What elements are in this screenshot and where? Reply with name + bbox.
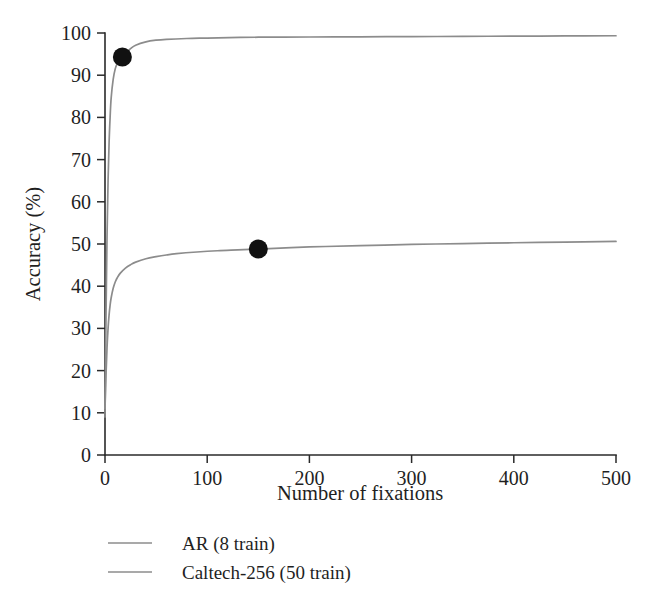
- y-tick-label: 100: [61, 22, 91, 44]
- x-tick-label: 500: [601, 467, 631, 489]
- y-axis-title: Accuracy (%): [22, 187, 45, 301]
- y-tick-label: 70: [71, 149, 91, 171]
- y-tick-label: 90: [71, 64, 91, 86]
- x-tick-label: 100: [192, 467, 222, 489]
- y-tick-label: 20: [71, 360, 91, 382]
- highlight-marker-1: [249, 240, 268, 259]
- y-tick-group: [97, 33, 105, 455]
- y-tick-label: 40: [71, 275, 91, 297]
- x-axis: 0100200300400500 Number of fixations: [100, 455, 631, 504]
- x-tick-label: 400: [499, 467, 529, 489]
- figure-container: 0102030405060708090100 Accuracy (%) 0100…: [0, 0, 657, 611]
- y-tick-label: 10: [71, 402, 91, 424]
- y-tick-label-group: 0102030405060708090100: [61, 22, 91, 466]
- y-tick-label: 30: [71, 317, 91, 339]
- y-tick-label: 60: [71, 191, 91, 213]
- y-axis: 0102030405060708090100 Accuracy (%): [22, 22, 105, 466]
- x-tick-label: 0: [100, 467, 110, 489]
- x-tick-group: [105, 455, 616, 463]
- highlight-marker-0: [113, 48, 132, 67]
- plot-area: [105, 33, 616, 455]
- chart-legend: AR (8 train)Caltech-256 (50 train): [108, 533, 351, 584]
- y-tick-label: 0: [81, 444, 91, 466]
- x-axis-title: Number of fixations: [277, 482, 443, 504]
- legend-label-1: Caltech-256 (50 train): [182, 562, 351, 584]
- legend-label-0: AR (8 train): [182, 533, 275, 555]
- y-tick-label: 80: [71, 106, 91, 128]
- y-tick-label: 50: [71, 233, 91, 255]
- plot-background: [105, 33, 616, 455]
- accuracy-vs-fixations-chart: 0102030405060708090100 Accuracy (%) 0100…: [0, 0, 657, 611]
